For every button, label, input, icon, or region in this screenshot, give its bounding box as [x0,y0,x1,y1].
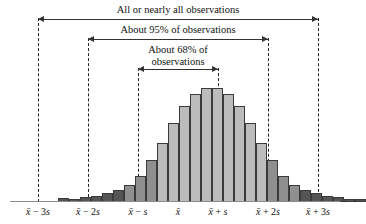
x-axis-tick-label: x̄ − s [129,206,148,217]
x-axis-line [10,201,340,202]
x-axis-tick-label: x̄ + 2s [256,206,280,217]
histogram-bar [289,185,300,202]
histogram-bar [168,123,179,202]
histogram-bar [212,88,223,202]
histogram-bar [146,160,157,202]
x-axis-tick-label: x̄ + s [209,206,228,217]
x-axis-tick-label: x̄ + 3s [306,206,330,217]
histogram-bar [157,143,168,202]
histogram-bar [278,176,289,202]
histogram-bar [355,199,366,202]
histogram-bar [201,88,212,202]
x-axis-tick-label: x̄ [176,206,180,217]
histogram-bars [0,0,349,202]
histogram-bar [190,94,201,202]
histogram-bar [234,106,245,202]
histogram-bar [245,123,256,202]
histogram-bar [256,143,267,202]
histogram-bar [223,94,234,202]
histogram-bar [135,176,146,202]
x-axis-tick-label: x̄ − 3s [26,206,50,217]
histogram-bar [344,199,355,202]
histogram-bar [179,106,190,202]
histogram-bar [124,185,135,202]
histogram-bar [267,160,278,202]
x-axis-tick-label: x̄ − 2s [76,206,100,217]
